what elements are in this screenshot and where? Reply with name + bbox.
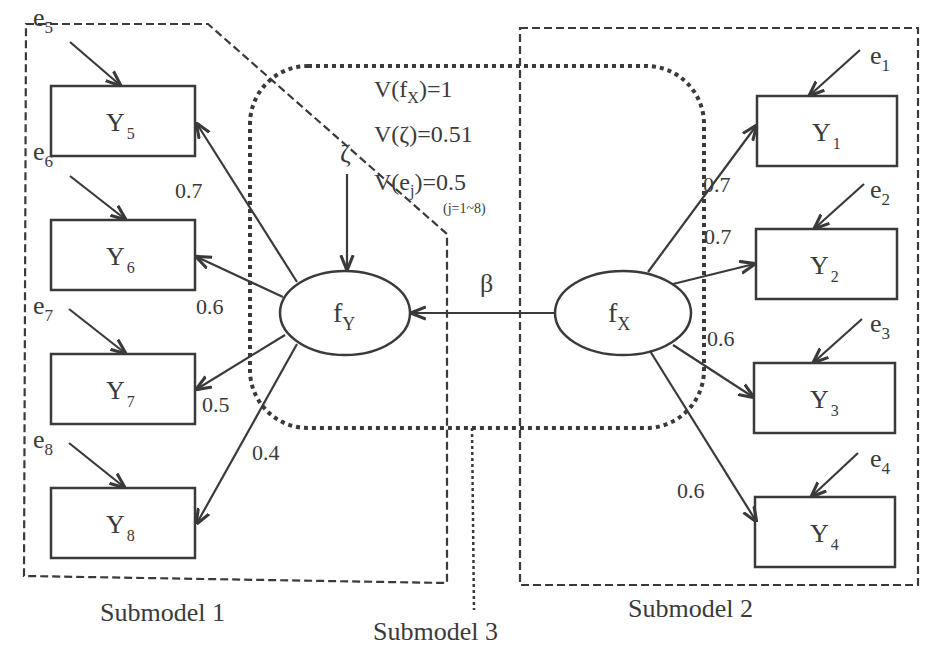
loading-Y4: 0.6 bbox=[677, 478, 705, 503]
loading-Y3: 0.6 bbox=[707, 326, 735, 351]
path-e3 bbox=[814, 319, 862, 362]
path-fX-Y2 bbox=[673, 264, 754, 284]
loading-Y8: 0.4 bbox=[252, 440, 280, 465]
path-e1 bbox=[810, 50, 860, 95]
label-e7: e7 bbox=[33, 291, 54, 325]
caption-submodel1: Submodel 1 bbox=[100, 598, 225, 627]
loading-Y2: 0.7 bbox=[704, 224, 732, 249]
path-e8 bbox=[69, 443, 124, 487]
loading-Y6: 0.6 bbox=[196, 294, 224, 319]
path-e7 bbox=[69, 309, 125, 353]
label-e8: e8 bbox=[33, 425, 53, 459]
label-e2: e2 bbox=[870, 175, 890, 209]
path-fY-Y6 bbox=[197, 257, 283, 297]
loading-Y7: 0.5 bbox=[202, 392, 230, 417]
latent-fX bbox=[555, 271, 691, 355]
sem-diagram: Y5 Y6 Y7 Y8 Y1 Y2 Y3 Y4 fY fX e5 e6 e7 e… bbox=[0, 0, 930, 655]
path-fY-Y5 bbox=[197, 124, 297, 282]
variance-zeta: V(ζ)=0.51 bbox=[374, 121, 473, 147]
path-e6 bbox=[70, 176, 125, 219]
latent-fY bbox=[280, 271, 410, 355]
path-e2 bbox=[815, 184, 864, 228]
submodel3-pointer bbox=[472, 428, 474, 610]
path-e5 bbox=[70, 42, 120, 85]
variance-e: V(ej)=0.5 bbox=[374, 169, 466, 200]
variance-e-note: (j=1~8) bbox=[443, 201, 486, 217]
label-zeta: ζ bbox=[340, 139, 351, 168]
path-fY-Y8 bbox=[197, 344, 297, 523]
label-e5: e5 bbox=[33, 3, 53, 37]
path-fY-Y7 bbox=[197, 335, 285, 389]
label-e4: e4 bbox=[870, 444, 891, 478]
caption-submodel2: Submodel 2 bbox=[628, 594, 753, 623]
path-fX-Y3 bbox=[673, 345, 753, 397]
caption-submodel3: Submodel 3 bbox=[373, 617, 498, 646]
path-e4 bbox=[812, 453, 858, 496]
label-e1: e1 bbox=[870, 41, 890, 75]
label-beta: β bbox=[480, 269, 493, 298]
variance-fx: V(fX)=1 bbox=[374, 76, 452, 106]
label-e3: e3 bbox=[870, 309, 890, 343]
loading-Y1: 0.7 bbox=[703, 172, 731, 197]
loading-Y5: 0.7 bbox=[175, 178, 203, 203]
